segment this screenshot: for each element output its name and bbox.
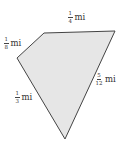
fraction-numerator: 1 [4, 37, 9, 44]
fraction-denominator: 12 [95, 80, 103, 86]
side-label-top: 1 4 mi [68, 11, 85, 24]
unit-label: mi [22, 93, 33, 102]
fraction: 1 8 [4, 37, 9, 50]
fraction: 1 4 [68, 11, 73, 24]
side-label-right: 5 12 mi [95, 73, 116, 86]
fraction-denominator: 8 [4, 44, 9, 50]
polygon-figure [0, 0, 126, 141]
side-label-left: 1 3 mi [15, 91, 32, 104]
fraction: 5 12 [95, 73, 103, 86]
fraction-denominator: 3 [15, 98, 20, 104]
side-label-top-left: 1 8 mi [4, 37, 21, 50]
unit-label: mi [75, 13, 86, 22]
fraction-numerator: 1 [15, 91, 20, 98]
unit-label: mi [105, 75, 116, 84]
fraction: 1 3 [15, 91, 20, 104]
fraction-numerator: 5 [97, 73, 102, 80]
unit-label: mi [11, 39, 22, 48]
fraction-numerator: 1 [68, 11, 73, 18]
fraction-denominator: 4 [68, 18, 73, 24]
